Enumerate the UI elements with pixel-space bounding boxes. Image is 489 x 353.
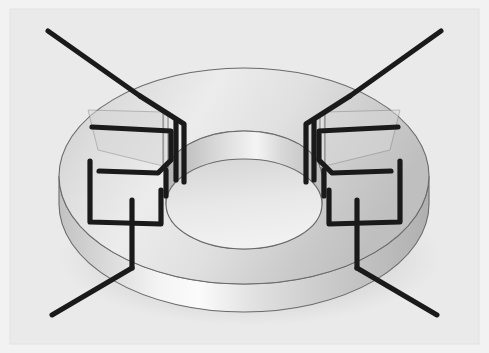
figure-root: Toroidal core with wire winding Three-di… [0,0,489,353]
torus-center-hole [166,159,322,249]
notch-left-cut-face [163,112,168,168]
toroid-winding-diagram [0,0,489,353]
